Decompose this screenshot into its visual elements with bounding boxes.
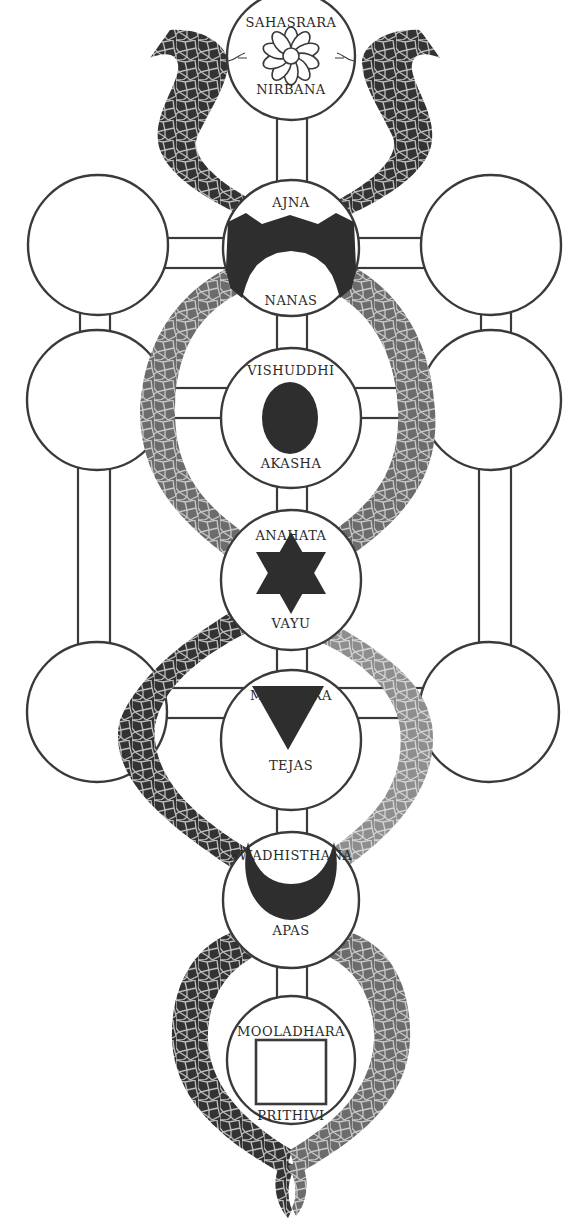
oval-egg-icon	[262, 382, 318, 454]
chakra-name: MOOLADHARA	[237, 1024, 345, 1039]
connector-bar	[277, 118, 307, 184]
chakra-swadhisthana: SWADHISTHANA APAS	[223, 832, 359, 968]
chakra-element: PRITHIVI	[257, 1108, 324, 1123]
chakra-element: NIRBANA	[256, 82, 326, 97]
chakra-manipura: MANIPURA TEJAS	[221, 670, 361, 810]
chakra-element: APAS	[271, 923, 309, 938]
chakra-ajna: AJNA NANAS	[223, 180, 359, 316]
square-icon	[256, 1040, 326, 1104]
chakra-element: AKASHA	[260, 456, 322, 471]
connector-bar	[277, 808, 307, 834]
connector-bar	[277, 648, 307, 672]
side-circle-right-2	[421, 330, 561, 470]
side-circle-right-1	[421, 175, 561, 315]
connector-bar	[277, 486, 307, 512]
chakra-anahata: ANAHATA VAYU	[221, 510, 361, 650]
kundalini-chakra-diagram: SAHASRARA NIRBANA AJNA NA	[0, 0, 584, 1221]
chakra-name: VISHUDDHI	[246, 363, 335, 378]
side-circle-left-1	[28, 175, 168, 315]
connector-bar	[277, 314, 307, 350]
chakra-vishuddhi: VISHUDDHI AKASHA	[221, 348, 361, 488]
left-rail	[78, 466, 110, 646]
chakra-element: VAYU	[271, 616, 311, 631]
chakra-mooladhara: MOOLADHARA PRITHIVI	[227, 996, 355, 1124]
side-circle-right-3	[419, 642, 559, 782]
chakra-name: AJNA	[271, 195, 309, 210]
chakra-sahasrara: SAHASRARA NIRBANA	[227, 0, 355, 120]
chakra-element: TEJAS	[269, 758, 313, 773]
connector-bar	[277, 966, 307, 998]
right-rail	[479, 466, 511, 646]
chakra-element: NANAS	[265, 293, 318, 308]
